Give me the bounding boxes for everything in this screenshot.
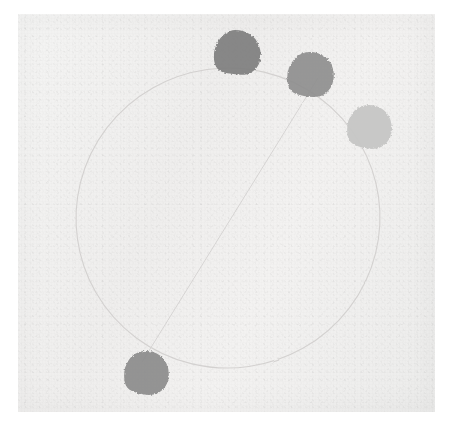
- body-marker-3: [347, 105, 392, 149]
- figure-root: [0, 0, 453, 426]
- diagram-vector-layer: [0, 0, 453, 426]
- body-marker-4: [124, 351, 169, 395]
- body-marker-2: [287, 52, 334, 97]
- orbit-ellipse: [57, 48, 400, 387]
- body-marker-1: [214, 30, 261, 75]
- apsides-line: [142, 78, 318, 362]
